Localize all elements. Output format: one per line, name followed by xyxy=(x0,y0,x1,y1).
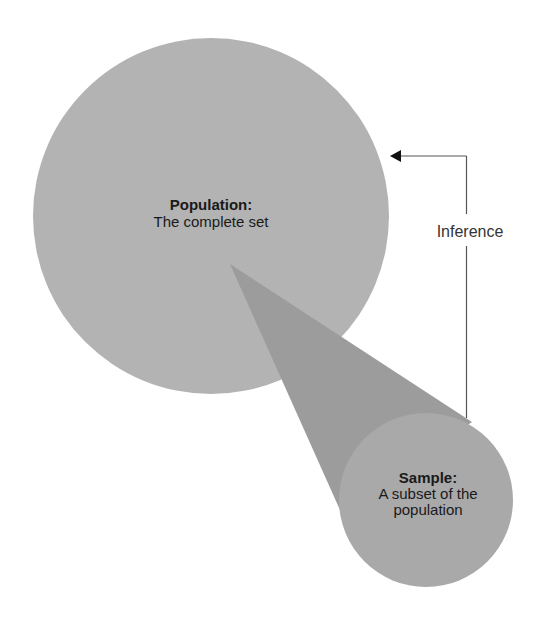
population-title: Population: xyxy=(170,196,253,213)
sample-title: Sample: xyxy=(399,469,457,486)
inference-label: Inference xyxy=(437,223,504,240)
population-subtitle: The complete set xyxy=(153,213,269,230)
sample-line2: population xyxy=(393,501,462,518)
sample-line1: A subset of the xyxy=(378,485,477,502)
population-sample-diagram: Population: The complete set Inference S… xyxy=(0,0,550,623)
inference-arrowhead-icon xyxy=(390,150,401,162)
